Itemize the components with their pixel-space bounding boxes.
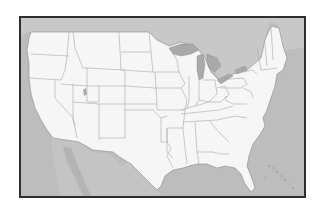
bahamas-islands (264, 165, 293, 189)
us-outline-map (21, 18, 304, 196)
map-frame (19, 16, 306, 198)
